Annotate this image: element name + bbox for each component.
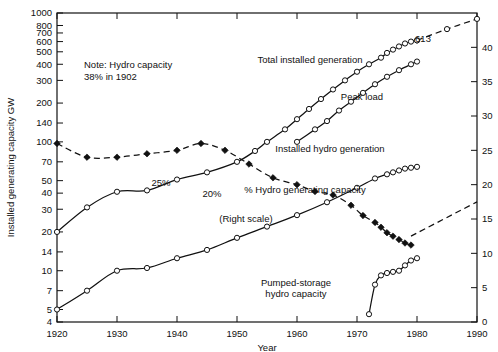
y-tick-label-left: 14 (41, 246, 52, 257)
data-point-marker (366, 62, 371, 67)
data-point-marker (396, 236, 403, 243)
data-point-marker (402, 263, 407, 268)
x-tick-label: 1940 (166, 328, 187, 339)
y-tick-label-left: 100 (36, 136, 52, 147)
y-tick-label-left: 30 (41, 204, 52, 215)
data-point-marker (84, 288, 89, 293)
data-point-marker (114, 154, 121, 161)
data-point-marker (414, 164, 419, 169)
data-point-marker (144, 151, 151, 158)
series-pumped-storage-hydro-capacity (366, 256, 419, 317)
data-point-marker (402, 41, 407, 46)
data-point-marker (306, 106, 311, 111)
data-point-marker (408, 258, 413, 263)
data-point-marker (390, 233, 397, 240)
note-line-1: Note: Hydro capacity (84, 59, 172, 70)
y-tick-label-right: 20 (482, 179, 493, 190)
y-tick-label-left: 400 (36, 59, 52, 70)
y-tick-label-right: 35 (482, 76, 493, 87)
data-point-marker (366, 312, 371, 317)
x-tick-label: 1990 (466, 328, 487, 339)
data-point-marker (402, 166, 407, 171)
y-tick-label-left: 70 (41, 156, 52, 167)
annotation-label-20pct: 20% (202, 188, 222, 199)
annotations: Total installed generationPeak loadInsta… (151, 33, 430, 299)
annotation-total-installed-generation: Total installed generation (257, 54, 362, 65)
data-point-marker (264, 224, 269, 229)
data-point-marker (408, 39, 413, 44)
data-point-marker (384, 74, 389, 79)
x-tick-label: 1960 (286, 328, 307, 339)
data-point-marker (114, 189, 119, 194)
y-tick-label-left: 300 (36, 75, 52, 86)
annotation-right-scale: (Right scale) (219, 213, 272, 224)
y-tick-label-right: 5 (482, 282, 487, 293)
data-point-marker (342, 78, 347, 83)
data-point-marker (54, 140, 61, 147)
data-point-marker (198, 140, 205, 147)
data-point-marker (246, 161, 253, 168)
y-tick-label-right: 25 (482, 145, 493, 156)
data-point-marker (414, 59, 419, 64)
y-tick-label-left: 500 (36, 46, 52, 57)
data-point-marker (402, 240, 409, 247)
data-point-marker (372, 282, 377, 287)
annotation-pumped-storage-l2: hydro capacity (265, 288, 327, 299)
y-tick-label-right: 15 (482, 213, 493, 224)
x-tick-label: 1970 (346, 328, 367, 339)
annotation-installed-hydro-generation: Installed hydro generation (275, 143, 384, 154)
data-point-marker (294, 117, 299, 122)
chart-figure: 4571014203040507010014020030040050060070… (0, 0, 498, 352)
y-tick-label-left: 7 (47, 285, 52, 296)
data-point-marker (252, 148, 257, 153)
data-point-marker (174, 147, 181, 154)
chart-canvas: 4571014203040507010014020030040050060070… (0, 0, 498, 352)
y-tick-label-right: 10 (482, 248, 493, 259)
x-tick-label: 1950 (226, 328, 247, 339)
data-point-marker (84, 205, 89, 210)
data-point-marker (390, 47, 395, 52)
data-point-marker (378, 55, 383, 60)
data-point-marker (384, 50, 389, 55)
y-tick-label-left: 5 (47, 304, 52, 315)
y-tick-label-left: 20 (41, 226, 52, 237)
data-point-marker (222, 147, 229, 154)
data-point-marker (114, 268, 119, 273)
y-axis-title: Installed generating capacity GW (5, 98, 16, 237)
data-point-marker (384, 270, 389, 275)
x-tick-label: 1930 (106, 328, 127, 339)
data-point-marker (396, 44, 401, 49)
data-point-marker (234, 235, 239, 240)
data-point-marker (54, 307, 59, 312)
y-tick-label-left: 4 (47, 316, 52, 327)
data-point-marker (396, 268, 401, 273)
data-point-marker (264, 139, 269, 144)
data-point-marker (408, 242, 415, 249)
data-point-marker (324, 118, 329, 123)
y-tick-label-right: 0 (482, 316, 487, 327)
series-hydro-generating-capacity-projection (411, 202, 477, 236)
data-point-marker (378, 273, 383, 278)
annotation-pct-hydro-generating-capacity: % Hydro generating capacity (244, 184, 366, 195)
y-tick-label-left: 1000 (31, 7, 52, 18)
y-tick-label-left: 40 (41, 187, 52, 198)
data-point-marker (174, 177, 179, 182)
x-tick-label: 1920 (46, 328, 67, 339)
data-point-marker (336, 108, 341, 113)
data-point-marker (384, 172, 389, 177)
data-point-marker (372, 82, 377, 87)
annotation-pumped-storage-l1: Pumped-storage (261, 277, 331, 288)
data-point-marker (282, 127, 287, 132)
data-point-marker (414, 256, 419, 261)
data-point-marker (312, 127, 317, 132)
data-point-marker (390, 269, 395, 274)
y-tick-label-left: 10 (41, 265, 52, 276)
y-tick-label-right: 30 (482, 110, 493, 121)
data-point-marker (324, 200, 329, 205)
data-point-marker (234, 159, 239, 164)
data-point-marker (144, 265, 149, 270)
data-point-marker (372, 176, 377, 181)
data-point-marker (84, 154, 91, 161)
x-axis-title: Year (257, 342, 276, 352)
data-point-marker (474, 16, 479, 21)
